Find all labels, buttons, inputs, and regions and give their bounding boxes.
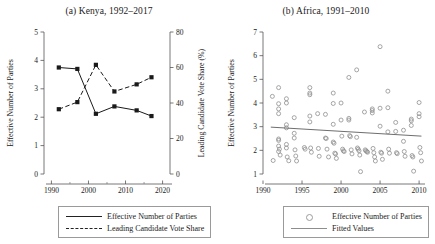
- scatter-point: [417, 101, 421, 105]
- data-point-marker: [57, 65, 61, 69]
- data-point-marker: [149, 75, 153, 79]
- data-point-marker: [135, 82, 139, 86]
- scatter-point: [378, 124, 382, 128]
- scatter-point: [409, 123, 413, 127]
- legend-africa: Effective Number of Parties Fitted Value…: [283, 206, 429, 238]
- x-axis-tick-label: 1990: [256, 186, 271, 195]
- scatter-point: [334, 156, 338, 160]
- scatter-point: [373, 155, 377, 159]
- data-point-marker: [75, 67, 79, 71]
- y-axis-tick-label: 2: [253, 146, 257, 155]
- y2-axis-tick-label: 60: [176, 63, 184, 72]
- x-axis-tick-label: 2000: [334, 186, 349, 195]
- x-axis-tick-label: 1990: [44, 186, 59, 195]
- y-axis-tick-label: 1: [253, 170, 257, 179]
- scatter-point: [402, 150, 406, 154]
- y-axis-tick-label: 1: [34, 141, 38, 150]
- scatter-point: [387, 151, 391, 155]
- y2-axis-tick-label: 40: [176, 99, 184, 108]
- scatter-point: [294, 154, 298, 158]
- scatter-point: [287, 159, 291, 163]
- scatter-point: [331, 91, 335, 95]
- y2-axis-tick-label: 0: [176, 170, 180, 179]
- scatter-point: [295, 159, 299, 163]
- data-point-marker: [94, 112, 98, 116]
- scatter-point: [372, 151, 376, 155]
- solid-line-key: [64, 211, 104, 222]
- scatter-point: [347, 75, 351, 79]
- scatter-point: [394, 129, 398, 133]
- legend-item-label: Leading Candidate Vote Share: [104, 224, 204, 233]
- scatter-point: [358, 153, 362, 157]
- dashed-line-key: [64, 223, 104, 234]
- scatter-point: [309, 150, 313, 154]
- scatter-point: [332, 141, 336, 145]
- y-axis-title: Effective Number of Parties: [227, 59, 236, 147]
- data-point-marker: [135, 108, 139, 112]
- scatter-point: [308, 114, 312, 118]
- fit-line-key: [289, 223, 329, 234]
- scatter-point: [284, 97, 288, 101]
- y-axis-tick-label: 6: [253, 51, 257, 60]
- scatter-point: [325, 147, 329, 151]
- data-point-marker: [94, 63, 98, 67]
- scatter-point: [284, 101, 288, 105]
- x-axis-tick-label: 2000: [81, 186, 96, 195]
- x-axis-tick-label: 1995: [295, 186, 310, 195]
- legend-item-label: Fitted Values: [329, 224, 374, 233]
- legend-item-label: Effective Number of Parties: [329, 212, 422, 221]
- y2-axis-tick-label: 80: [176, 28, 184, 37]
- panel-kenya: (a) Kenya, 1992–2017 012345Effective Num…: [0, 0, 218, 200]
- scatter-point: [277, 112, 281, 116]
- x-axis-tick-label: 2005: [373, 186, 388, 195]
- scatter-point: [331, 122, 335, 126]
- y-axis-right-title: Leading Candidate Vote Share (%): [197, 48, 206, 157]
- kenya-plot: 012345Effective Number of Parties0204060…: [0, 0, 218, 200]
- scatter-point: [293, 148, 297, 152]
- data-point-marker: [75, 100, 79, 104]
- legend-item: Effective Number of Parties: [289, 210, 422, 222]
- scatter-point: [378, 106, 382, 110]
- figure-two-panel-chart: (a) Kenya, 1992–2017 012345Effective Num…: [0, 0, 435, 244]
- scatter-point: [359, 170, 363, 174]
- y-axis-tick-label: 4: [34, 56, 38, 65]
- legend-item: Leading Candidate Vote Share: [64, 222, 204, 234]
- scatter-point: [340, 134, 344, 138]
- scatter-point: [412, 169, 416, 173]
- y-axis-tick-label: 0: [34, 170, 38, 179]
- scatter-point: [419, 151, 423, 155]
- scatter-point: [316, 146, 320, 150]
- scatter-point: [316, 112, 320, 116]
- x-axis-tick-label: 2010: [412, 186, 427, 195]
- data-point-marker: [112, 104, 116, 108]
- scatter-point: [339, 101, 343, 105]
- scatter-point: [308, 120, 312, 124]
- x-axis-tick-label: 2020: [155, 186, 170, 195]
- series-line-dashed: [59, 65, 152, 109]
- data-point-marker: [149, 114, 153, 118]
- scatter-point: [327, 155, 331, 159]
- scatter-point: [277, 107, 281, 111]
- data-point-marker: [57, 107, 61, 111]
- africa-plot: 1234567Effective Number of Parties199019…: [217, 0, 435, 200]
- scatter-point: [401, 139, 405, 143]
- scatter-point: [362, 110, 366, 114]
- scatter-point: [292, 116, 296, 120]
- scatter-point: [331, 101, 335, 105]
- scatter-point: [386, 106, 390, 110]
- scatter-point: [380, 157, 384, 161]
- scatter-point: [278, 153, 282, 157]
- scatter-point: [323, 112, 327, 116]
- scatter-point: [401, 128, 405, 132]
- legend-item: Fitted Values: [289, 222, 422, 234]
- scatter-point: [355, 68, 359, 72]
- y-axis-tick-label: 3: [253, 122, 257, 131]
- scatter-point: [349, 148, 353, 152]
- scatter-point: [270, 94, 274, 98]
- scatter-point: [292, 131, 296, 135]
- scatter-point: [387, 147, 391, 151]
- data-point-marker: [112, 89, 116, 93]
- scatter-point: [371, 146, 375, 150]
- panel-africa: (b) Africa, 1991–2010 1234567Effective N…: [217, 0, 435, 200]
- legend-item: Effective Number of Parties: [64, 210, 204, 222]
